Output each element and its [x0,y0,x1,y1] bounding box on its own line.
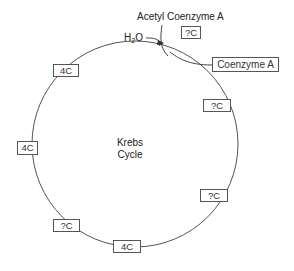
acetyl-coenzyme-a-label: Acetyl Coenzyme A [137,11,224,22]
intermediate-right-upper: ?C [203,99,231,112]
acetyl-carbon-box: ?C [181,26,201,39]
acetyl-coa-arrow [161,25,168,56]
intermediate-lower-left: ?C [53,219,80,232]
center-label-line1: Krebs [110,137,150,149]
intermediate-right-lower: ?C [200,189,228,202]
krebs-cycle-center-label: Krebs Cycle [110,137,150,161]
coenzyme-a-box: Coenzyme A [212,57,279,72]
intermediate-left: 4C [17,141,38,155]
center-label-line2: Cycle [110,149,150,161]
intermediate-upper-left: 4C [53,64,79,77]
water-label: H2O [124,32,143,43]
coenzyme-a-line [170,52,212,65]
intermediate-bottom: 4C [113,240,141,253]
cycle-diagram-canvas [0,0,294,271]
